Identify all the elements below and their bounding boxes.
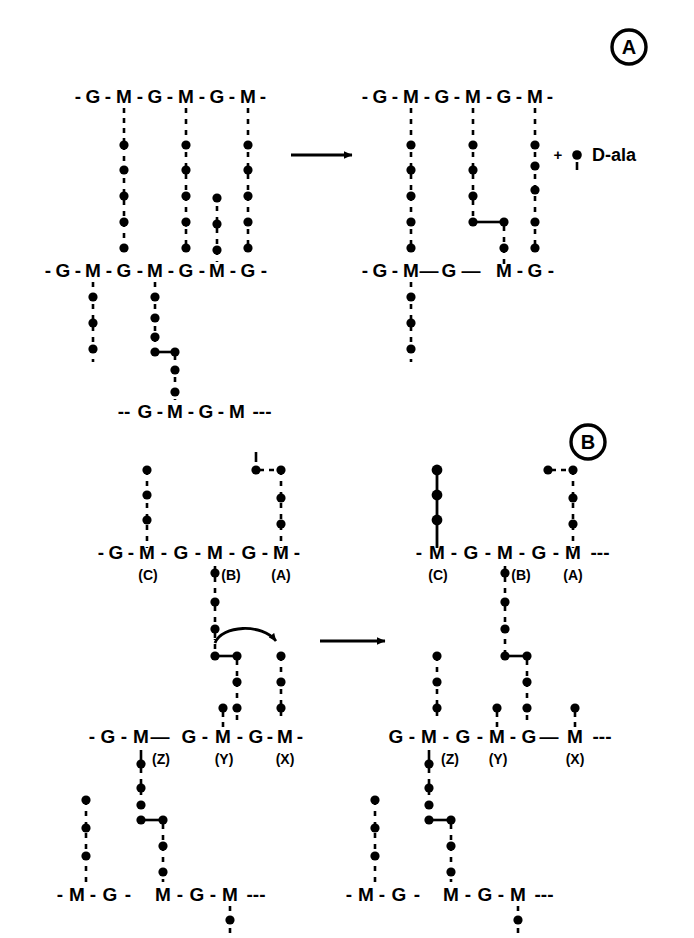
residue-dot bbox=[232, 677, 241, 686]
residue-dot bbox=[170, 365, 179, 374]
residue-m: M bbox=[567, 726, 583, 747]
residue-g: G bbox=[199, 401, 214, 422]
residue-dot bbox=[406, 191, 415, 200]
residue-g: G bbox=[117, 260, 132, 281]
chain-lead-dashes: -- bbox=[118, 401, 131, 422]
residue-m: M bbox=[443, 884, 459, 905]
residue-dot bbox=[210, 624, 219, 633]
residue-dot bbox=[424, 800, 433, 809]
residue-dot bbox=[406, 165, 415, 174]
chain-trailing-dashes: --- bbox=[591, 542, 610, 563]
chain-dash: - bbox=[454, 86, 460, 107]
residue-dot bbox=[243, 140, 252, 149]
residue-dot bbox=[568, 519, 577, 528]
chain-dash: - bbox=[553, 542, 559, 563]
site-label-y: (Y) bbox=[489, 751, 508, 767]
residue-dot bbox=[370, 851, 379, 860]
chain-dash: - bbox=[465, 884, 471, 905]
chain-trailing-dashes: --- bbox=[535, 884, 554, 905]
residue-m: M bbox=[133, 726, 149, 747]
chain-dash: - bbox=[105, 86, 111, 107]
residue-dot bbox=[158, 867, 167, 876]
chain-dash: - bbox=[167, 86, 173, 107]
site-label-x: (X) bbox=[566, 751, 585, 767]
d-ala-residue-dot bbox=[572, 150, 582, 160]
residue-dot bbox=[276, 493, 285, 502]
residue-dot bbox=[142, 465, 151, 474]
chain-dash: - bbox=[157, 401, 163, 422]
residue-m: M bbox=[147, 260, 163, 281]
panel-a-badge: A bbox=[612, 30, 646, 64]
residue-dot bbox=[81, 795, 90, 804]
chain-dash: - bbox=[267, 726, 273, 747]
residue-dot bbox=[142, 515, 151, 524]
residue-dot bbox=[568, 493, 577, 502]
chain-dash: - bbox=[424, 86, 430, 107]
chain-dash: - bbox=[547, 86, 553, 107]
chain-dash: - bbox=[75, 86, 81, 107]
chain-dash: - bbox=[486, 86, 492, 107]
chain-long-dash: — bbox=[420, 260, 439, 281]
residue-dot bbox=[212, 193, 221, 202]
residue-dot bbox=[136, 759, 145, 768]
residue-dot bbox=[468, 140, 477, 149]
residue-m: M bbox=[273, 542, 289, 563]
residue-dot bbox=[432, 515, 443, 526]
chain-dash: - bbox=[392, 260, 398, 281]
residue-dot bbox=[181, 165, 190, 174]
site-label-a: (A) bbox=[271, 567, 290, 583]
chain-dash: - bbox=[137, 86, 143, 107]
chain-dash: - bbox=[121, 726, 127, 747]
residue-g: G bbox=[389, 726, 404, 747]
residue-g: G bbox=[528, 260, 543, 281]
residue-dot bbox=[225, 915, 234, 924]
chain-dash: - bbox=[498, 884, 504, 905]
residue-g: G bbox=[373, 260, 388, 281]
residue-dot bbox=[446, 841, 455, 850]
residue-dot bbox=[432, 465, 443, 476]
residue-m: M bbox=[240, 86, 256, 107]
residue-m: M bbox=[497, 542, 513, 563]
chain-dash: - bbox=[128, 542, 134, 563]
site-label-z: (Z) bbox=[441, 751, 459, 767]
residue-dot bbox=[522, 677, 531, 686]
residue-dot bbox=[88, 318, 97, 327]
residue-m: M bbox=[139, 542, 155, 563]
chain-dash: - bbox=[548, 260, 554, 281]
chain-dash: - bbox=[188, 401, 194, 422]
residue-dot bbox=[424, 759, 433, 768]
residue-m: M bbox=[155, 884, 171, 905]
residue-dot bbox=[530, 185, 539, 194]
chain-dash: - bbox=[379, 884, 385, 905]
residue-dot bbox=[406, 217, 415, 226]
residue-dot bbox=[243, 165, 252, 174]
panel-a-left-chain-middle: - G - M - G - M - G - M - G - bbox=[45, 260, 267, 281]
panel-b-badge: B bbox=[571, 425, 605, 459]
residue-g: G bbox=[435, 86, 450, 107]
residue-dot bbox=[150, 313, 159, 322]
panel-b-right-chain-top: - M - G - M - G - M --- (C) (B) (A) bbox=[416, 542, 610, 583]
residue-dot bbox=[88, 344, 97, 353]
residue-m: M bbox=[465, 86, 481, 107]
chain-dash: - bbox=[260, 86, 266, 107]
figure-background bbox=[0, 0, 694, 938]
residue-g: G bbox=[174, 542, 189, 563]
residue-m: M bbox=[215, 726, 231, 747]
residue-g: G bbox=[148, 86, 163, 107]
residue-g: G bbox=[497, 86, 512, 107]
residue-dot bbox=[232, 703, 241, 712]
residue-dot bbox=[150, 332, 159, 341]
residue-g: G bbox=[241, 260, 256, 281]
residue-dot bbox=[158, 841, 167, 850]
residue-dot bbox=[88, 292, 97, 301]
chain-dash: - bbox=[409, 726, 415, 747]
residue-g: G bbox=[532, 542, 547, 563]
residue-m: M bbox=[527, 86, 543, 107]
residue-dot bbox=[406, 292, 415, 301]
residue-dot bbox=[370, 823, 379, 832]
figure-root: A - G - M - G - M - G - M - bbox=[0, 0, 694, 938]
residue-dot bbox=[210, 597, 219, 606]
residue-g: G bbox=[103, 884, 118, 905]
peptidoglycan-diagram-canvas: A - G - M - G - M - G - M - bbox=[0, 0, 694, 938]
chain-long-dash: — bbox=[151, 726, 170, 747]
